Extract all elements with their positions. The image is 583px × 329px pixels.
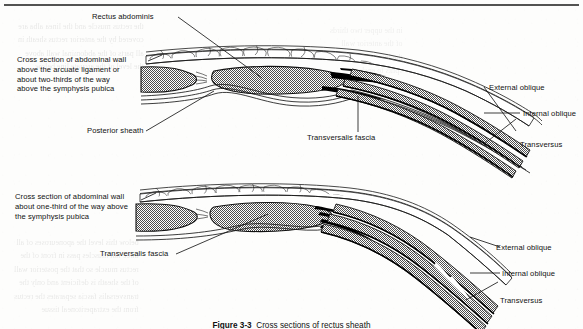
lower-desc-line-2: about one-third of the way above <box>15 202 159 212</box>
upper-desc-line-4: above the symphysis pubica <box>17 84 153 94</box>
figure-caption-clip: Figure 3-3 Cross sections of rectus shea… <box>0 316 583 329</box>
label-transversus-upper: Transversus <box>520 140 562 150</box>
label-external-oblique-upper: External oblique <box>489 83 545 93</box>
label-transversus-lower: Transversus <box>500 296 542 306</box>
lower-panel-description: Cross section of abdominal wall about on… <box>15 192 159 221</box>
label-transversalis-fascia-lower: Transversalis fascia <box>100 249 168 259</box>
lower-desc-line-1: Cross section of abdominal wall <box>15 192 159 202</box>
upper-panel-illustration <box>141 17 542 178</box>
label-external-oblique-lower: External oblique <box>496 243 552 253</box>
label-internal-oblique-upper: Internal oblique <box>523 109 576 119</box>
figure-caption: Figure 3-3 Cross sections of rectus shea… <box>0 320 583 329</box>
upper-desc-line-1: Cross section of abdominal wall <box>17 55 153 65</box>
figure-caption-number: Figure 3-3 <box>213 321 252 329</box>
label-internal-oblique-lower: Internal oblique <box>502 269 555 279</box>
lower-desc-line-3: the symphysis pubica <box>15 212 159 222</box>
label-transversalis-fascia-upper: Transversalis fascia <box>307 133 375 143</box>
upper-desc-line-3: about two-thirds of the way <box>17 75 153 85</box>
label-posterior-sheath: Posterior sheath <box>87 126 144 136</box>
figure-caption-text: Cross sections of rectus sheath <box>256 321 370 329</box>
label-rectus-abdominis: Rectus abdominis <box>92 12 154 22</box>
upper-panel-description: Cross section of abdominal wall above th… <box>17 55 153 94</box>
lower-panel-illustration <box>136 183 512 329</box>
figure-page: the rectus muscle and the linea alba are… <box>0 0 583 329</box>
upper-desc-line-2: above the arcuate ligament or <box>17 65 153 75</box>
anatomy-illustration <box>0 0 583 329</box>
